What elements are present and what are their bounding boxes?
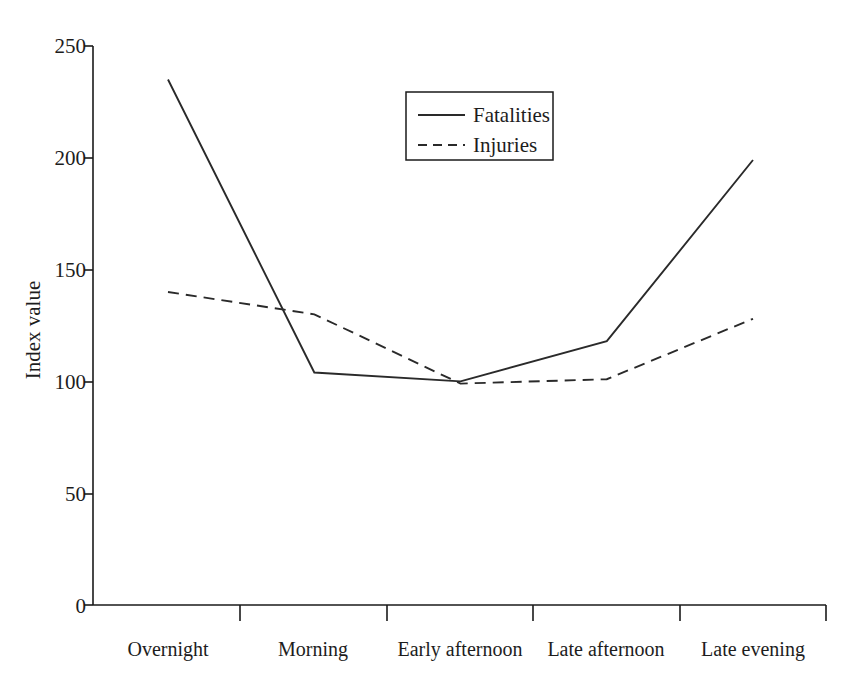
series-line-fatalities [168,80,753,382]
chart-canvas: Index value 250 200 150 100 50 0 [0,0,846,674]
y-axis-ticks [84,46,93,605]
y-tick-label-100: 100 [55,370,87,394]
x-tick-label-late-evening: Late evening [701,638,805,661]
y-tick-label-50: 50 [65,482,86,506]
x-axis-category-labels: Overnight Morning Early afternoon Late a… [127,638,804,661]
y-tick-label-150: 150 [55,258,87,282]
y-tick-label-250: 250 [55,34,87,58]
y-tick-label-0: 0 [76,594,87,618]
y-axis-tick-labels: 250 200 150 100 50 0 [55,34,87,618]
x-tick-label-early-afternoon: Early afternoon [398,638,523,661]
legend-label-fatalities: Fatalities [473,103,550,127]
line-chart: Index value 250 200 150 100 50 0 [0,0,846,674]
x-tick-label-overnight: Overnight [127,638,209,661]
legend: Fatalities Injuries [406,92,553,160]
y-axis-title: Index value [21,281,45,380]
legend-label-injuries: Injuries [473,133,537,157]
y-tick-label-200: 200 [55,146,87,170]
series-line-injuries [168,292,753,384]
x-tick-label-morning: Morning [278,638,348,661]
x-tick-label-late-afternoon: Late afternoon [547,638,664,660]
x-axis-ticks [240,605,826,621]
